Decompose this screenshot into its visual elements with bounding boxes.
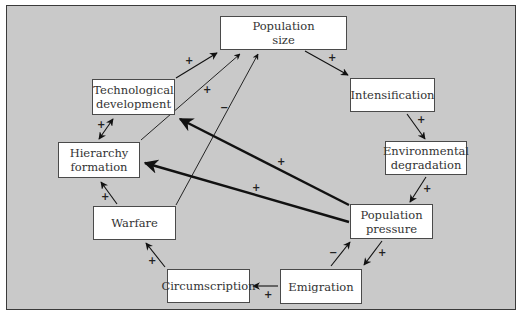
sign-poppressure-to-tech: + bbox=[277, 157, 285, 167]
node-environmental-degradation: Environmental degradation bbox=[385, 141, 467, 175]
node-population-size: Population size bbox=[220, 16, 347, 50]
sign-tech-to-popsize: + bbox=[185, 56, 193, 66]
edge-popsize-to-intensification bbox=[305, 51, 348, 75]
sign-circumscription-to-warfare: + bbox=[148, 256, 156, 266]
node-warfare: Warfare bbox=[93, 206, 176, 240]
sign-poppressure-to-hierarchy: + bbox=[252, 183, 260, 193]
sign-warfare-to-popsize: − bbox=[220, 103, 228, 113]
sign-hierarchy-tech: + bbox=[97, 120, 105, 130]
sign-emigration-to-poppressure: − bbox=[329, 248, 337, 258]
node-technological-development: Technological development bbox=[92, 79, 175, 115]
sign-popsize-to-intensification: + bbox=[328, 53, 336, 63]
node-population-pressure: Population pressure bbox=[350, 204, 433, 239]
sign-envdeg-to-poppressure: + bbox=[423, 184, 431, 194]
edge-poppressure-to-tech bbox=[180, 119, 349, 205]
sign-hierarchy-to-popsize: + bbox=[203, 85, 211, 95]
node-hierarchy-formation: Hierarchy formation bbox=[58, 142, 140, 178]
node-intensification: Intensification bbox=[350, 78, 435, 112]
edge-warfare-to-popsize bbox=[176, 54, 258, 205]
edge-tech-to-popsize bbox=[176, 53, 217, 78]
sign-warfare-to-hierarchy: + bbox=[101, 192, 109, 202]
sign-intensification-to-envdeg: + bbox=[417, 115, 425, 125]
node-emigration: Emigration bbox=[280, 269, 362, 304]
sign-poppressure-to-emigration: + bbox=[378, 248, 386, 258]
node-circumscription: Circumscription bbox=[167, 269, 250, 303]
sign-emigration-to-circumscription: + bbox=[264, 290, 272, 300]
